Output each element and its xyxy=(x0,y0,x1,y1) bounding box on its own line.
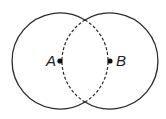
label-b: B xyxy=(116,52,126,69)
point-a xyxy=(57,58,62,63)
circle-a-inner-arc xyxy=(85,20,108,102)
point-b xyxy=(107,58,112,63)
label-a: A xyxy=(45,52,56,69)
circle-b-inner-arc xyxy=(62,20,85,102)
circles-figure: A B xyxy=(0,0,166,119)
diagram: A B xyxy=(0,0,166,119)
